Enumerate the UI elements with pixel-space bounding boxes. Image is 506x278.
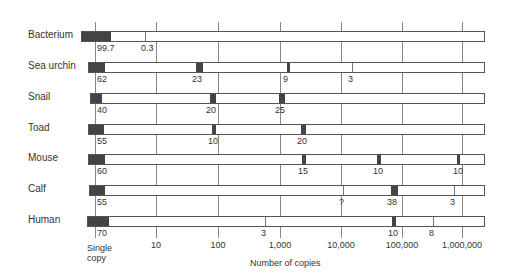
single-copy-segment	[88, 217, 109, 226]
repeat-segment	[212, 125, 216, 134]
repeat-segment	[433, 217, 434, 226]
row-label: Toad	[28, 122, 50, 133]
segment-percent: 38	[387, 197, 397, 207]
repeat-segment	[302, 155, 306, 164]
row-label: Human	[28, 214, 60, 225]
single-copy-percent: 70	[97, 228, 107, 238]
segment-percent: 20	[206, 105, 216, 115]
repeat-segment	[287, 63, 290, 72]
x-axis-title: Number of copies	[250, 258, 321, 268]
row-label: Calf	[28, 183, 46, 194]
repeat-segment	[454, 186, 455, 195]
repeat-segment	[210, 94, 216, 103]
repeat-segment	[145, 32, 146, 41]
repeat-segment	[301, 125, 306, 134]
row-label: Snail	[28, 91, 50, 102]
segment-percent: 25	[275, 105, 285, 115]
segment-percent: 10	[373, 166, 383, 176]
segment-percent: 0.3	[141, 43, 154, 53]
segment-percent: 10	[388, 228, 398, 238]
single-copy-percent: 55	[97, 136, 107, 146]
segment-percent: 3	[348, 74, 353, 84]
segment-percent: 8	[429, 228, 434, 238]
repeat-segment	[196, 63, 203, 72]
single-copy-segment	[89, 155, 105, 164]
row-bar	[89, 185, 485, 196]
segment-percent: 23	[192, 74, 202, 84]
single-copy-percent: 99.7	[97, 43, 115, 53]
segment-percent: ?	[339, 197, 344, 207]
repeat-segment	[265, 217, 266, 226]
row-bar	[88, 154, 485, 165]
repeat-segment	[343, 186, 344, 195]
axis-tick-label: 100	[188, 240, 248, 250]
repeat-segment	[352, 63, 353, 72]
single-copy-segment	[89, 125, 104, 134]
repeat-segment	[457, 155, 460, 164]
segment-percent: 9	[283, 74, 288, 84]
row-label: Bacterium	[28, 29, 73, 40]
single-copy-percent: 55	[97, 197, 107, 207]
repeat-segment	[392, 217, 396, 226]
segment-percent: 10	[208, 136, 218, 146]
single-copy-segment	[91, 94, 102, 103]
single-copy-segment	[89, 63, 105, 72]
row-bar	[88, 124, 485, 135]
single-copy-segment	[82, 32, 111, 41]
axis-tick-label: 10,000	[311, 240, 371, 250]
axis-tick-label-2: copy	[87, 253, 106, 263]
axis-tick-label: 1,000	[250, 240, 310, 250]
row-bar	[88, 62, 485, 73]
row-bar	[87, 216, 485, 227]
row-label: Mouse	[28, 152, 58, 163]
single-copy-segment	[90, 186, 105, 195]
repeat-segment	[377, 155, 381, 164]
axis-tick-label: 1,000,000	[432, 240, 492, 250]
row-label: Sea urchin	[28, 60, 76, 71]
segment-percent: 3	[261, 228, 266, 238]
segment-percent: 10	[453, 166, 463, 176]
row-bar	[90, 93, 485, 104]
single-copy-percent: 40	[97, 105, 107, 115]
axis-tick-label: 10	[126, 240, 186, 250]
repetitive-dna-chart: Singlecopy101001,00010,000100,0001,000,0…	[0, 0, 506, 278]
repeat-segment	[391, 186, 398, 195]
axis-tick-label: 100,000	[372, 240, 432, 250]
segment-percent: 15	[298, 166, 308, 176]
row-bar	[81, 31, 485, 42]
repeat-segment	[279, 94, 285, 103]
segment-percent: 3	[450, 197, 455, 207]
segment-percent: 20	[297, 136, 307, 146]
single-copy-percent: 60	[97, 166, 107, 176]
single-copy-percent: 62	[97, 74, 107, 84]
